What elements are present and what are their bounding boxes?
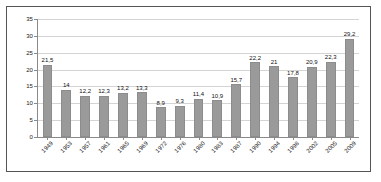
bar[interactable] [307,67,317,137]
x-axis-tick-label: 1994 [267,140,281,154]
x-axis-tick-mark [236,138,237,140]
bar-value-label: 12,2 [79,88,91,94]
x-axis-tick-mark [85,138,86,140]
bar-slot: 9,3 [170,19,189,137]
bar-value-label: 14 [63,82,70,88]
y-axis-tick-label: 10 [7,100,33,106]
x-axis-tick-mark [142,138,143,140]
x-axis-tick-mark [104,138,105,140]
y-axis-tick-label: 15 [7,83,33,89]
x-axis-tick-mark [293,138,294,140]
bar[interactable] [212,100,222,137]
bar-slot: 10,9 [208,19,227,137]
y-axis-tick-mark [34,103,37,104]
bar[interactable] [99,96,109,137]
bar-slot: 21,5 [38,19,57,137]
x-axis-tick-label: 1987 [230,140,244,154]
y-axis-tick-label: 25 [7,50,33,56]
x-axis-tick-label: 1961 [97,140,111,154]
bar-value-label: 22,3 [325,54,337,60]
x-axis-tick-label: 2002 [305,140,319,154]
bar[interactable] [288,77,298,137]
x-axis-tick-mark [161,138,162,140]
bar-value-label: 21 [271,59,278,65]
x-axis-tick-mark [123,138,124,140]
bar[interactable] [118,93,128,138]
bar-value-label: 10,9 [212,93,224,99]
y-axis-tick-mark [34,19,37,20]
x-axis-tick-label: 2005 [324,140,338,154]
x-axis-tick-mark [47,138,48,140]
x-axis-tick-label: 1957 [78,140,92,154]
bar-value-label: 29,2 [344,31,356,37]
bar-slot: 22,2 [246,19,265,137]
x-axis-tick-labels: 1949195319571961196519691972197619801983… [38,138,359,172]
bar-slot: 13,3 [132,19,151,137]
bar-slot: 29,2 [340,19,359,137]
x-axis-tick-label: 1949 [41,140,55,154]
bar-value-label: 8,9 [157,100,165,106]
y-axis-tick-mark [34,36,37,37]
bar-value-label: 15,7 [230,77,242,83]
chart-frame: 05101520253035 21,51412,212,313,213,38,9… [6,6,371,172]
bar-slot: 11,4 [189,19,208,137]
y-axis-tick-label: 35 [7,16,33,22]
bar-slot: 12,3 [95,19,114,137]
chart-plot-area: 05101520253035 21,51412,212,313,213,38,9… [7,7,372,173]
bar-value-label: 13,3 [136,85,148,91]
x-axis-tick-label: 1983 [211,140,225,154]
bar[interactable] [137,92,147,137]
bar[interactable] [250,62,260,137]
bar[interactable] [80,96,90,137]
bar[interactable] [345,39,355,137]
bar[interactable] [326,62,336,137]
x-axis-tick-mark [331,138,332,140]
bar-slot: 21 [265,19,284,137]
x-axis-tick-label: 1953 [60,140,74,154]
x-axis-tick-label: 1980 [192,140,206,154]
bar-slot: 12,2 [76,19,95,137]
x-axis-tick-mark [312,138,313,140]
bar-slot: 13,2 [114,19,133,137]
y-axis-tick-label: 0 [7,134,33,140]
bar-slot: 14 [57,19,76,137]
x-axis-tick-label: 1998 [286,140,300,154]
bar-slot: 17,8 [283,19,302,137]
x-axis-tick-label: 1965 [116,140,130,154]
bar-value-label: 11,4 [193,91,204,97]
bar-value-label: 12,3 [98,88,110,94]
bar[interactable] [43,65,53,137]
bar-slot: 22,3 [321,19,340,137]
bar[interactable] [269,66,279,137]
x-axis-tick-label: 1990 [248,140,262,154]
y-axis-tick-label: 30 [7,33,33,39]
x-axis-tick-label: 1972 [154,140,168,154]
x-axis-tick-label: 1969 [135,140,149,154]
bar[interactable] [156,107,166,137]
y-axis-tick-mark [34,86,37,87]
bar[interactable] [61,90,71,137]
bar[interactable] [194,99,204,137]
bars-group: 21,51412,212,313,213,38,99,311,410,915,7… [38,19,359,137]
bar-slot: 20,9 [302,19,321,137]
bar-value-label: 17,8 [287,70,299,76]
y-axis-tick-mark [34,70,37,71]
x-axis-tick-mark [66,138,67,140]
x-axis-tick-mark [199,138,200,140]
x-axis-tick-mark [217,138,218,140]
bar-slot: 15,7 [227,19,246,137]
y-axis-tick-label: 5 [7,117,33,123]
bar-value-label: 21,5 [42,57,54,63]
bar[interactable] [231,84,241,137]
bar-slot: 8,9 [151,19,170,137]
screenshot-root: 05101520253035 21,51412,212,313,213,38,9… [0,0,381,182]
x-axis-tick-mark [350,138,351,140]
x-axis-tick-label: 1976 [173,140,187,154]
y-axis-tick-mark [34,53,37,54]
bar[interactable] [175,106,185,137]
x-axis-tick-mark [255,138,256,140]
y-axis-tick-mark [34,120,37,121]
bar-value-label: 22,2 [249,55,261,61]
bar-value-label: 13,2 [117,85,129,91]
x-axis-tick-label: 2009 [343,140,357,154]
